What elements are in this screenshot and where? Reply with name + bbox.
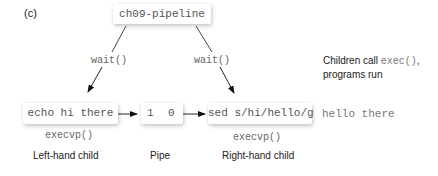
right-execvp-label: execvp() [233, 132, 281, 143]
pipe-write-end: 1 [147, 103, 154, 123]
edge-parent-right-upper [196, 26, 212, 52]
parent-process-name: ch09-pipeline [119, 8, 205, 20]
exec-note: Children call exec(), programs run [323, 54, 420, 81]
pipe-caption: Pipe [150, 150, 170, 161]
edge-parent-left-upper [112, 26, 126, 52]
parent-process-box: ch09-pipeline [113, 4, 211, 24]
left-wait-label: wait() [91, 55, 127, 66]
right-child-command: sed s/hi/hello/g [208, 107, 314, 119]
pipeline-output: hello there [322, 108, 395, 120]
right-wait-label: wait() [194, 55, 230, 66]
pipe-box: 1 0 [141, 103, 183, 124]
left-child-box: echo hi there [23, 103, 118, 124]
edge-parent-left-lower [88, 67, 102, 92]
left-child-command: echo hi there [28, 107, 114, 119]
panel-label: (c) [24, 7, 37, 19]
right-child-box: sed s/hi/hello/g [208, 103, 312, 124]
left-child-caption: Left-hand child [33, 150, 99, 161]
left-execvp-label: execvp() [45, 130, 93, 141]
edge-parent-right-lower [220, 67, 234, 93]
pipe-read-end: 0 [168, 103, 175, 123]
right-child-caption: Right-hand child [222, 150, 294, 161]
exec-note-line2: programs run [323, 68, 420, 81]
exec-note-line1: Children call exec(), [323, 54, 420, 68]
